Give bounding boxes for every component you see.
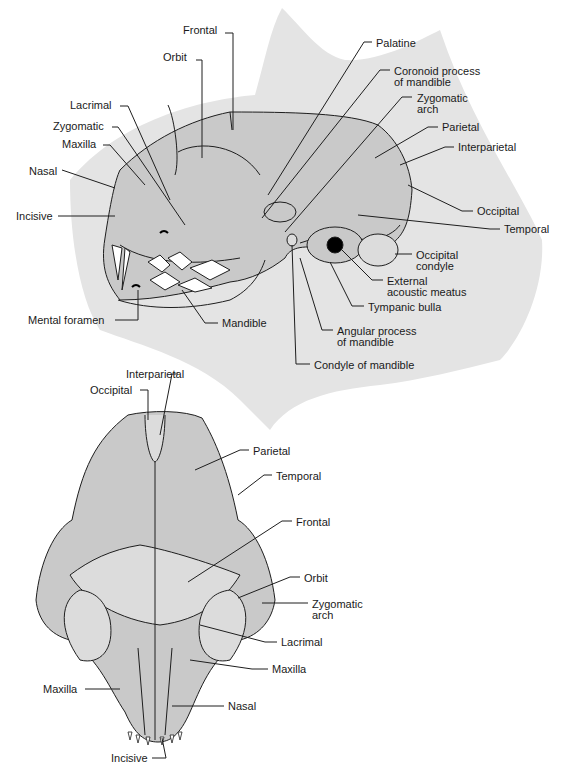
label-interparietal: Interparietal	[458, 142, 516, 153]
label-occipital: Occipital	[477, 206, 519, 217]
label-nasal: Nasal	[29, 166, 57, 177]
label-angular-process-line2: of mandible	[337, 337, 394, 348]
label-temporal-dorsal: Temporal	[276, 471, 321, 482]
label-orbit-dorsal: Orbit	[304, 573, 328, 584]
label-occipital-condyle-line2: condyle	[416, 261, 454, 272]
label-external-acoustic-meatus-line2: acoustic meatus	[387, 287, 466, 298]
label-lacrimal-dorsal: Lacrimal	[281, 637, 323, 648]
label-mandible: Mandible	[222, 318, 267, 329]
label-incisive: Incisive	[16, 211, 53, 222]
label-maxilla-right-dorsal: Maxilla	[272, 664, 306, 675]
label-orbit: Orbit	[163, 52, 187, 63]
label-zygomatic-arch-dorsal-line2: arch	[312, 610, 333, 621]
label-temporal: Temporal	[504, 224, 549, 235]
label-parietal: Parietal	[442, 122, 479, 133]
label-zygomatic-arch-line2: arch	[417, 104, 438, 115]
label-tympanic-bulla: Tympanic bulla	[368, 302, 441, 313]
label-maxilla: Maxilla	[62, 139, 96, 150]
label-maxilla-left-dorsal: Maxilla	[43, 684, 77, 695]
label-condyle-of-mandible: Condyle of mandible	[314, 360, 414, 371]
skull-diagram	[0, 0, 575, 771]
label-incisive-dorsal: Incisive	[111, 753, 148, 764]
label-frontal: Frontal	[183, 25, 217, 36]
label-parietal-dorsal: Parietal	[253, 446, 290, 457]
label-coronoid-process-line2: of mandible	[394, 77, 451, 88]
label-occipital-dorsal: Occipital	[90, 385, 132, 396]
label-mental-foramen: Mental foramen	[28, 315, 104, 326]
label-lacrimal: Lacrimal	[70, 100, 112, 111]
label-zygomatic: Zygomatic	[53, 121, 104, 132]
label-frontal-dorsal: Frontal	[296, 517, 330, 528]
label-interparietal-dorsal: Interparietal	[126, 369, 184, 380]
label-nasal-dorsal: Nasal	[228, 701, 256, 712]
label-palatine: Palatine	[376, 38, 416, 49]
